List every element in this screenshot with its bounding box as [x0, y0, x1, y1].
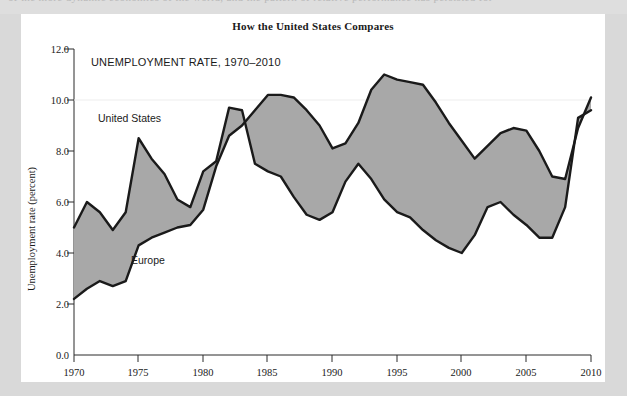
figure-card: How the United States Compares Unemploym…: [21, 14, 605, 382]
y-axis-title: Unemployment rate (percent): [26, 166, 38, 291]
page-bottom-bleed: [0, 382, 627, 396]
x-tick-label-1970: 1970: [64, 367, 85, 378]
x-tick-label-2005: 2005: [516, 367, 537, 378]
series-annotation-united-states: United States: [98, 112, 161, 124]
x-tick-label-1985: 1985: [257, 367, 278, 378]
x-tick-label-2000: 2000: [451, 367, 472, 378]
series-annotation-europe: Europe: [131, 254, 165, 266]
y-tick-label-0: 0.0: [56, 350, 69, 361]
x-axis-ticks: [74, 355, 591, 362]
x-tick-label-2010: 2010: [581, 367, 602, 378]
y-axis-ticks: [67, 100, 74, 304]
x-tick-label-1980: 1980: [193, 367, 214, 378]
x-tick-label-1995: 1995: [387, 367, 408, 378]
x-tick-label-1990: 1990: [322, 367, 343, 378]
x-tick-label-1975: 1975: [128, 367, 149, 378]
unemployment-rate-chart: Unemployment rate (percent) 12.0 10.0 8.…: [21, 14, 605, 382]
page-top-bleed: of the more dynamic economies of the wor…: [0, 0, 627, 14]
figure-page: of the more dynamic economies of the wor…: [0, 0, 627, 396]
page-bleed-text: of the more dynamic economies of the wor…: [8, 0, 493, 3]
chart-subtitle: UNEMPLOYMENT RATE, 1970–2010: [91, 56, 281, 68]
y-tick-label-10: 10.0: [51, 95, 69, 106]
